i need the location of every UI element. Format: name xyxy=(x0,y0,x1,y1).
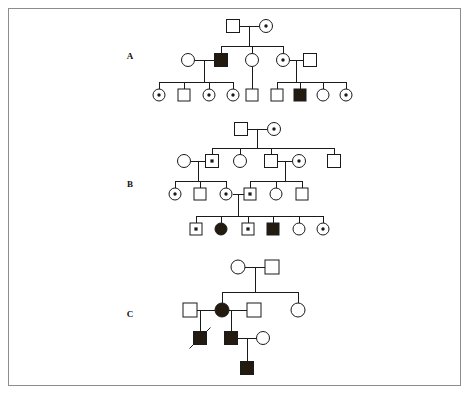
c-iv-1[interactable] xyxy=(241,362,254,375)
c-ii-3[interactable] xyxy=(247,303,261,317)
b-ii-2-carrier-dot-icon xyxy=(210,159,213,162)
pedigree-label-b: B xyxy=(127,179,133,189)
b-iv-4[interactable] xyxy=(267,223,279,235)
b-iii-2[interactable] xyxy=(194,188,206,200)
c-iii-3[interactable] xyxy=(257,332,270,345)
b-iii-5[interactable] xyxy=(270,188,282,200)
c-i-2[interactable] xyxy=(265,260,279,274)
a-ii-3[interactable] xyxy=(246,54,259,67)
pedigree-canvas: ABC xyxy=(0,0,473,396)
pedigree-a: A xyxy=(127,20,352,102)
pedigree-c: C xyxy=(127,260,305,375)
b-ii-3[interactable] xyxy=(234,155,247,168)
b-iii-6[interactable] xyxy=(296,188,308,200)
b-iv-2[interactable] xyxy=(215,223,227,235)
b-iv-6-carrier-dot-icon xyxy=(321,227,324,230)
pedigree-label-c: C xyxy=(127,309,134,319)
a-ii-4-carrier-dot-icon xyxy=(281,58,284,61)
c-iii-2[interactable] xyxy=(225,332,238,345)
b-iii-3-carrier-dot-icon xyxy=(224,192,227,195)
b-iv-3-carrier-dot-icon xyxy=(246,227,249,230)
a-i-1[interactable] xyxy=(227,20,240,33)
a-i-2-carrier-dot-icon xyxy=(264,24,267,27)
c-ii-1[interactable] xyxy=(183,303,197,317)
a-iii-7[interactable] xyxy=(294,89,306,101)
a-iii-3-carrier-dot-icon xyxy=(207,93,210,96)
a-iii-2[interactable] xyxy=(178,89,190,101)
pedigree-b: B xyxy=(127,123,341,236)
c-ii-4[interactable] xyxy=(291,303,305,317)
b-iii-1-carrier-dot-icon xyxy=(173,192,176,195)
b-ii-5-carrier-dot-icon xyxy=(297,159,300,162)
c-ii-2[interactable] xyxy=(215,303,229,317)
b-ii-1[interactable] xyxy=(178,155,191,168)
a-iii-5[interactable] xyxy=(246,89,258,101)
a-iii-8[interactable] xyxy=(317,89,329,101)
a-iii-6[interactable] xyxy=(271,89,283,101)
b-iii-4-carrier-dot-icon xyxy=(248,192,251,195)
b-iv-5[interactable] xyxy=(293,223,305,235)
c-i-1[interactable] xyxy=(231,260,245,274)
b-i-1[interactable] xyxy=(235,123,248,136)
a-iii-1-carrier-dot-icon xyxy=(157,93,160,96)
a-ii-2[interactable] xyxy=(215,54,228,67)
pedigree-label-a: A xyxy=(127,51,134,61)
a-iii-4-carrier-dot-icon xyxy=(231,93,234,96)
a-ii-5[interactable] xyxy=(304,54,317,67)
b-i-2-carrier-dot-icon xyxy=(272,127,275,130)
a-ii-1[interactable] xyxy=(182,54,195,67)
b-iv-1-carrier-dot-icon xyxy=(194,227,197,230)
b-ii-6[interactable] xyxy=(328,155,341,168)
b-ii-4[interactable] xyxy=(265,155,278,168)
pedigree-figure: ABC xyxy=(0,0,473,396)
a-iii-9-carrier-dot-icon xyxy=(344,93,347,96)
